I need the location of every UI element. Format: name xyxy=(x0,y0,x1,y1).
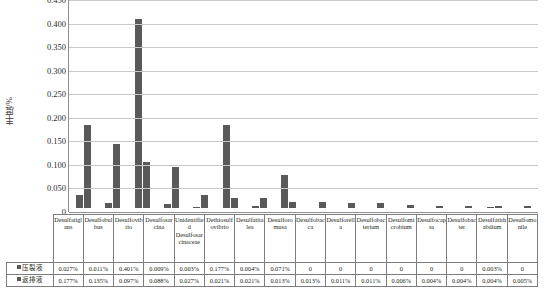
y-axis-tick-label: 0.450 xyxy=(22,0,66,5)
table-cell-value: 0.004% xyxy=(416,275,446,287)
table-cell-value: 0.071% xyxy=(265,263,295,275)
bar xyxy=(172,167,179,208)
bar-group xyxy=(186,0,215,208)
bar-group xyxy=(128,0,157,208)
bar xyxy=(407,205,414,208)
table-column-header: Desulfatirhabdium xyxy=(477,215,507,263)
table-cell-value: 0.021% xyxy=(204,275,234,287)
plot-gridlines xyxy=(68,0,538,212)
table-cell-value: 0.011% xyxy=(326,275,356,287)
bar xyxy=(105,203,112,208)
table-cell-value: 0 xyxy=(295,263,325,275)
plot-area: 丰度/% 0.4500.4000.3500.3000.2500.2000.150… xyxy=(0,0,544,216)
bar-group xyxy=(479,0,508,208)
table-column-header: Desulfobulbus xyxy=(83,215,113,263)
chart-figure: 丰度/% 0.4500.4000.3500.3000.2500.2000.150… xyxy=(0,0,544,304)
legend-series-label: 返排液 xyxy=(7,275,54,287)
bar-series-container xyxy=(69,0,538,208)
bar xyxy=(223,125,230,208)
table-cell-value: 0.177% xyxy=(204,263,234,275)
bar xyxy=(495,206,502,208)
table-cell-value: 0.004% xyxy=(235,263,265,275)
table-cell-value: 0 xyxy=(416,263,446,275)
bar xyxy=(281,175,288,208)
bar xyxy=(193,207,200,208)
bar xyxy=(252,206,259,208)
legend-swatch-icon xyxy=(17,265,21,269)
bar xyxy=(289,202,296,208)
table-column-header: Desulfovibrio xyxy=(114,215,144,263)
table-cell-value: 0 xyxy=(447,263,477,275)
table-column-header: Desulfobacterium xyxy=(356,215,386,263)
table-cell-value: 0.004% xyxy=(477,275,507,287)
table-column-header: Desulfocapsa xyxy=(416,215,446,263)
data-table-wrapper: DesulfatiglansDesulfobulbusDesulfovibrio… xyxy=(6,214,538,287)
bar-group xyxy=(391,0,420,208)
table-cell-value: 0.003% xyxy=(174,263,204,275)
bar-group xyxy=(509,0,538,208)
table-column-header: Desulfatitalea xyxy=(235,215,265,263)
bar-group xyxy=(216,0,245,208)
table-column-header: Desulfobacca xyxy=(295,215,325,263)
bar xyxy=(436,206,443,208)
bar xyxy=(76,195,83,208)
table-header-row: DesulfatiglansDesulfobulbusDesulfovibrio… xyxy=(7,215,538,263)
bar xyxy=(487,207,494,208)
table-column-header: Desulfomicrobium xyxy=(386,215,416,263)
table-column-header: Dethiosulfovibrio xyxy=(204,215,234,263)
legend-swatch-icon xyxy=(17,277,21,281)
table-cell-value: 0.135% xyxy=(83,275,113,287)
bar xyxy=(465,206,472,208)
y-axis-tick-label: 0.250 xyxy=(22,90,66,99)
table-cell-value: 0.097% xyxy=(114,275,144,287)
bar xyxy=(377,203,384,208)
table-column-header: Desulfosarcina xyxy=(144,215,174,263)
y-axis-tick-label: 0.200 xyxy=(22,113,66,122)
table-cell-value: 0.088% xyxy=(144,275,174,287)
gridline xyxy=(69,71,538,72)
gridline xyxy=(69,141,538,142)
table-cell-value: 0.177% xyxy=(53,275,83,287)
table-cell-value: 0.009% xyxy=(144,263,174,275)
table-corner-cell xyxy=(7,215,54,263)
gridline xyxy=(69,94,538,95)
y-axis-tick-label: 0.350 xyxy=(22,43,66,52)
bar xyxy=(231,198,238,208)
gridline xyxy=(69,188,538,189)
table-cell-value: 0.011% xyxy=(356,275,386,287)
table-column-header: Desulforomusa xyxy=(265,215,295,263)
bar xyxy=(113,144,120,208)
bar-group xyxy=(362,0,391,208)
table-cell-value: 0.027% xyxy=(174,275,204,287)
table-cell-value: 0.013% xyxy=(265,275,295,287)
y-axis-tick-label: 0.050 xyxy=(22,184,66,193)
bar-group xyxy=(304,0,333,208)
y-axis-tick-label: 0.150 xyxy=(22,137,66,146)
table-row: 返排液0.177%0.135%0.097%0.088%0.027%0.021%0… xyxy=(7,275,538,287)
bar-group xyxy=(333,0,362,208)
table-cell-value: 0.013% xyxy=(295,275,325,287)
gridline xyxy=(69,118,538,119)
y-axis-tick-labels: 0.4500.4000.3500.3000.2500.2000.1500.100… xyxy=(18,0,66,216)
table-cell-value: 0 xyxy=(356,263,386,275)
table-column-header: Desulfomonile xyxy=(507,215,537,263)
bar xyxy=(164,204,171,208)
bar xyxy=(143,162,150,208)
table-column-header: Unidentified Desulfosarcinaceae xyxy=(174,215,204,263)
bar xyxy=(319,202,326,208)
gridline xyxy=(69,212,538,213)
bar xyxy=(348,203,355,208)
bar xyxy=(201,195,208,208)
table-cell-value: 0 xyxy=(386,263,416,275)
y-axis-tick-label: 0.400 xyxy=(22,19,66,28)
table-cell-value: 0.003% xyxy=(477,263,507,275)
gridline xyxy=(69,165,538,166)
table-cell-value: 0.021% xyxy=(235,275,265,287)
table-cell-value: 0.027% xyxy=(53,263,83,275)
bar xyxy=(84,125,91,208)
table-cell-value: 0.006% xyxy=(386,275,416,287)
bar xyxy=(524,206,531,208)
gridline xyxy=(69,24,538,25)
legend-series-label: 压裂液 xyxy=(7,263,54,275)
table-column-header: Desulfatiglans xyxy=(53,215,83,263)
